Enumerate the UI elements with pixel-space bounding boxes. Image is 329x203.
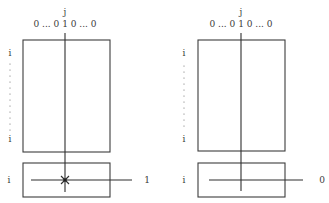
right-row-ellipsis-dots	[183, 65, 184, 126]
left-output-label: 1	[144, 175, 150, 185]
left-lower-row-label: i	[8, 175, 11, 185]
right-panel: j 0 ... 0 1 0 ... 0 i i i 0	[183, 7, 326, 197]
right-row-label-top: i	[183, 48, 186, 58]
right-row-label-bottom: i	[183, 134, 186, 144]
right-column-vector-label: 0 ... 0 1 0 ... 0	[210, 19, 273, 29]
right-lower-row-label: i	[183, 175, 186, 185]
diagram-canvas: j 0 ... 0 1 0 ... 0 i i i 1	[0, 0, 329, 203]
right-output-label: 0	[319, 175, 325, 185]
left-main-matrix-box	[23, 40, 110, 152]
left-row-ellipsis-dots	[9, 63, 10, 130]
left-row-label-bottom: i	[9, 134, 12, 144]
left-row-label-top: i	[9, 48, 12, 58]
left-panel: j 0 ... 0 1 0 ... 0 i i i 1	[8, 7, 150, 197]
left-column-index-label: j	[63, 7, 67, 17]
left-column-vector-label: 0 ... 0 1 0 ... 0	[34, 19, 97, 29]
right-column-index-label: j	[239, 7, 243, 17]
